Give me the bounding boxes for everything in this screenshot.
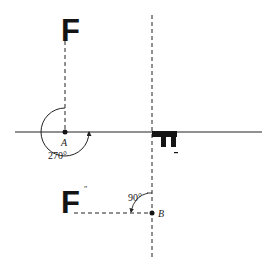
rotation-diagram: F F ″ A 270° B 90°: [0, 0, 274, 272]
point-b: [150, 211, 155, 216]
angle-label-90: 90°: [128, 192, 142, 203]
point-a-label: A: [60, 137, 68, 148]
double-prime-mark: ″: [84, 185, 87, 194]
double-image-f-shape: F: [61, 185, 80, 220]
point-b-label: B: [158, 208, 164, 219]
original-f-shape: F: [61, 13, 80, 48]
rotated-f-shape-image: [152, 131, 178, 153]
point-a: [63, 130, 68, 135]
angle-label-270: 270°: [48, 150, 67, 161]
